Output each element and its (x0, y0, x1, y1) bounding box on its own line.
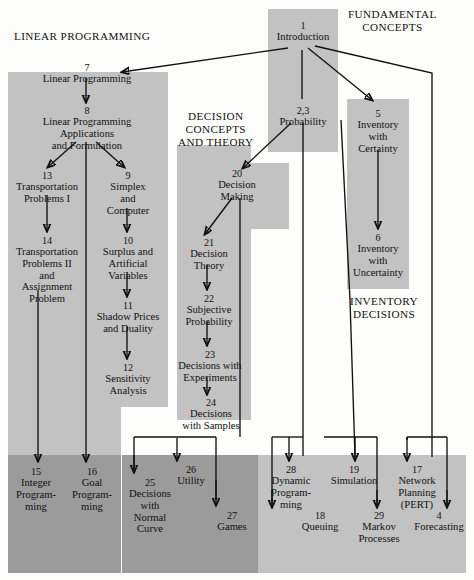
chapter-number: 15 (8, 466, 64, 477)
chapter-title: Surplus and Artificial Variables (92, 246, 164, 281)
chapter-node-ch5[interactable]: 5Inventory with Certainty (347, 108, 409, 154)
chapter-number: 29 (348, 510, 410, 521)
chapter-node-ch1[interactable]: 1Introduction (268, 20, 338, 43)
chapter-node-ch4[interactable]: 4Forecasting (406, 510, 472, 533)
chapter-title: Probability (263, 116, 343, 128)
chapter-node-ch29[interactable]: 29Markov Processes (348, 510, 410, 545)
chapter-node-ch10[interactable]: 10Surplus and Artificial Variables (92, 235, 164, 281)
chapter-node-ch21[interactable]: 21Decision Theory (178, 237, 240, 272)
chapter-title: Subjective Probability (172, 304, 246, 327)
chapter-number: 19 (320, 464, 388, 475)
chapter-number: 4 (406, 510, 472, 521)
chapter-node-ch27[interactable]: 27Games (206, 510, 258, 533)
chapter-title: Introduction (268, 31, 338, 43)
chapter-node-ch18[interactable]: 18Queuing (292, 510, 348, 533)
section-label-fundamental-concepts: FUNDAMENTAL CONCEPTS (348, 8, 437, 34)
chapter-node-ch19[interactable]: 19Simulation (320, 464, 388, 487)
chapter-title: Simplex and Computer (92, 181, 164, 216)
chapter-number: 23 (168, 349, 252, 360)
chapter-number: 10 (92, 235, 164, 246)
chapter-node-ch20[interactable]: 20Decision Making (206, 168, 268, 203)
chapter-title: Markov Processes (348, 521, 410, 544)
chapter-node-ch28[interactable]: 28Dynamic Program- ming (262, 464, 320, 510)
chapter-number: 16 (64, 466, 120, 477)
chapter-node-ch17[interactable]: 17Network Planning (PERT) (388, 464, 446, 510)
chapter-title: Goal Program- ming (64, 477, 120, 512)
chapter-title: Shadow Prices and Duality (88, 311, 168, 334)
chapter-number: 6 (343, 232, 413, 243)
link-23-to-simulation (341, 120, 355, 457)
chapter-node-ch8[interactable]: 8Linear Programming Applications and For… (12, 105, 162, 151)
chapter-number: 8 (12, 105, 162, 116)
chapter-number: 14 (8, 235, 86, 246)
chapter-number: 28 (262, 464, 320, 475)
chapter-number: 17 (388, 464, 446, 475)
chapter-number: 1 (268, 20, 338, 31)
chapter-node-ch23b[interactable]: 23Decisions with Experiments (168, 349, 252, 384)
chapter-title: Sensitivity Analysis (92, 373, 164, 396)
chapter-number: 26 (160, 464, 222, 475)
chapter-title: Decisions with Experiments (168, 360, 252, 383)
chapter-title: Simulation (320, 475, 388, 487)
chapter-number: 12 (92, 362, 164, 373)
chapter-number: 22 (172, 293, 246, 304)
chapter-node-ch6[interactable]: 6Inventory with Uncertainty (343, 232, 413, 278)
chapter-number: 11 (88, 300, 168, 311)
chapter-title: Linear Programming Applications and Form… (12, 116, 162, 151)
chapter-title: Transportation Problems II and Assignmen… (8, 246, 86, 304)
chapter-number: 18 (292, 510, 348, 521)
chapter-title: Forecasting (406, 521, 472, 533)
chapter-node-ch9[interactable]: 9Simplex and Computer (92, 170, 164, 216)
chapter-title: Linear Programming (12, 73, 162, 85)
chapter-title: Games (206, 521, 258, 533)
chapter-title: Inventory with Uncertainty (343, 243, 413, 278)
chapter-title: Inventory with Certainty (347, 119, 409, 154)
chapter-node-ch22[interactable]: 22Subjective Probability (172, 293, 246, 328)
chapter-node-ch23[interactable]: 2,3Probability (263, 105, 343, 128)
chapter-node-ch16[interactable]: 16Goal Program- ming (64, 466, 120, 512)
chapter-number: 20 (206, 168, 268, 179)
chapter-number: 13 (8, 170, 86, 181)
chapter-title: Network Planning (PERT) (388, 475, 446, 510)
chapter-title: Queuing (292, 521, 348, 533)
chapter-number: 21 (178, 237, 240, 248)
chapter-title: Utility (160, 475, 222, 487)
section-label-inventory-decisions: INVENTORY DECISIONS (350, 295, 418, 321)
chapter-node-ch24[interactable]: 24Decisions with Samples (172, 397, 250, 432)
chapter-title: Decision Theory (178, 248, 240, 271)
link-1-to-5 (308, 48, 372, 100)
chapter-title: Dynamic Program- ming (262, 475, 320, 510)
chapter-number: 27 (206, 510, 258, 521)
section-label-linear-programming: LINEAR PROGRAMMING (14, 30, 150, 43)
chapter-node-ch11[interactable]: 11Shadow Prices and Duality (88, 300, 168, 335)
chapter-node-ch13[interactable]: 13Transportation Problems I (8, 170, 86, 205)
chapter-number: 2,3 (263, 105, 343, 116)
chapter-node-ch12[interactable]: 12Sensitivity Analysis (92, 362, 164, 397)
chapter-number: 5 (347, 108, 409, 119)
chapter-number: 24 (172, 397, 250, 408)
chapter-title: Integer Program- ming (8, 477, 64, 512)
chapter-title: Decision Making (206, 179, 268, 202)
link-20-to-21 (205, 198, 232, 234)
chapter-node-ch14[interactable]: 14Transportation Problems II and Assignm… (8, 235, 86, 305)
chapter-title: Decisions with Normal Curve (122, 488, 178, 535)
chapter-title: Transportation Problems I (8, 181, 86, 204)
chapter-node-ch7[interactable]: 7Linear Programming (12, 62, 162, 85)
flowchart-diagram: LINEAR PROGRAMMINGFUNDAMENTAL CONCEPTSDE… (0, 0, 474, 580)
chapter-title: Decisions with Samples (172, 408, 250, 431)
chapter-node-ch15[interactable]: 15Integer Program- ming (8, 466, 64, 512)
chapter-number: 9 (92, 170, 164, 181)
chapter-number: 7 (12, 62, 162, 73)
section-label-decision-concepts-and-theory: DECISION CONCEPTS AND THEORY (178, 110, 254, 150)
chapter-node-ch26[interactable]: 26Utility (160, 464, 222, 487)
